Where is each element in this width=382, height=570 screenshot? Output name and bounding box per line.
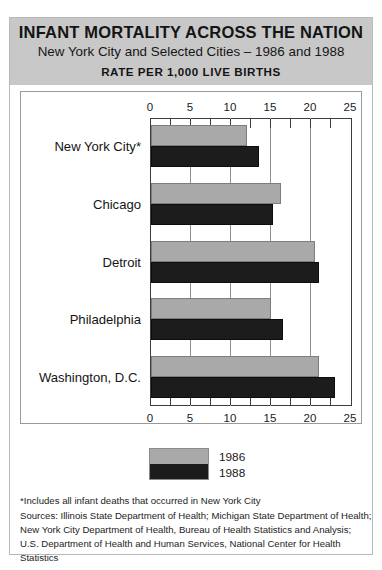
axis-tick-label: 10 bbox=[224, 412, 237, 424]
chart-units-label: RATE PER 1,000 LIVE BIRTHS bbox=[16, 65, 366, 78]
chart-area: 00551010151520202525New York City*Chicag… bbox=[10, 85, 372, 430]
plot-region: 00551010151520202525New York City*Chicag… bbox=[150, 118, 352, 406]
bar-1988-philadelphia bbox=[151, 319, 283, 340]
legend-swatch-1988 bbox=[150, 464, 208, 479]
footnote-line: U.S. Department of Health and Human Serv… bbox=[20, 537, 360, 551]
axis-tick bbox=[250, 119, 251, 128]
footnote-line: Statistics bbox=[20, 551, 360, 565]
axis-tick-label: 20 bbox=[304, 412, 317, 424]
axis-top bbox=[150, 118, 352, 119]
bar-1986-chicago bbox=[151, 183, 281, 204]
footnote-line: New York City Department of Health, Bure… bbox=[20, 523, 360, 537]
axis-bottom bbox=[150, 405, 352, 406]
chart-header: INFANT MORTALITY ACROSS THE NATION New Y… bbox=[10, 18, 372, 85]
bar-1988-detroit bbox=[151, 262, 319, 283]
category-label: Philadelphia bbox=[70, 312, 141, 327]
legend: 1986 1988 bbox=[149, 448, 211, 480]
axis-tick-label: 5 bbox=[187, 101, 193, 113]
footnote-line: *Includes all infant deaths that occurre… bbox=[20, 494, 360, 508]
chart-subtitle: New York City and Selected Cities – 1986… bbox=[16, 44, 366, 59]
bar-1988-chicago bbox=[151, 204, 273, 225]
chart-card: INFANT MORTALITY ACROSS THE NATION New Y… bbox=[9, 17, 373, 555]
legend-label-1986: 1986 bbox=[219, 452, 245, 464]
page-title: INFANT MORTALITY ACROSS THE NATION bbox=[16, 23, 366, 41]
axis-tick-label: 25 bbox=[344, 101, 357, 113]
axis-tick bbox=[290, 119, 291, 128]
axis-right bbox=[351, 118, 352, 406]
axis-tick-label: 10 bbox=[224, 101, 237, 113]
axis-tick-label: 0 bbox=[147, 101, 153, 113]
axis-tick-label: 25 bbox=[344, 412, 357, 424]
bar-1988-washingtondc bbox=[151, 377, 335, 398]
legend-swatches bbox=[149, 448, 209, 480]
axis-tick-label: 5 bbox=[187, 412, 193, 424]
bar-1986-washingtondc bbox=[151, 356, 319, 377]
category-label: Detroit bbox=[102, 254, 141, 269]
axis-tick-label: 0 bbox=[147, 412, 153, 424]
footnote: *Includes all infant deaths that occurre… bbox=[20, 494, 360, 565]
axis-tick bbox=[310, 119, 311, 128]
footnote-line: Sources: Illinois State Department of He… bbox=[20, 509, 360, 523]
bar-1986-philadelphia bbox=[151, 298, 271, 319]
category-label: New York City* bbox=[54, 139, 141, 154]
legend-swatch-1986 bbox=[150, 449, 208, 464]
axis-tick-label: 20 bbox=[304, 101, 317, 113]
axis-tick bbox=[270, 119, 271, 128]
axis-tick-label: 15 bbox=[264, 101, 277, 113]
bar-1988-newyorkcity bbox=[151, 146, 259, 167]
axis-tick-label: 15 bbox=[264, 412, 277, 424]
legend-label-1988: 1988 bbox=[219, 468, 245, 480]
bar-1986-newyorkcity bbox=[151, 125, 247, 146]
bar-1986-detroit bbox=[151, 241, 315, 262]
category-label: Chicago bbox=[93, 196, 141, 211]
chart-frame: 00551010151520202525New York City*Chicag… bbox=[20, 91, 362, 424]
axis-tick bbox=[330, 119, 331, 128]
category-label: Washington, D.C. bbox=[39, 369, 141, 384]
